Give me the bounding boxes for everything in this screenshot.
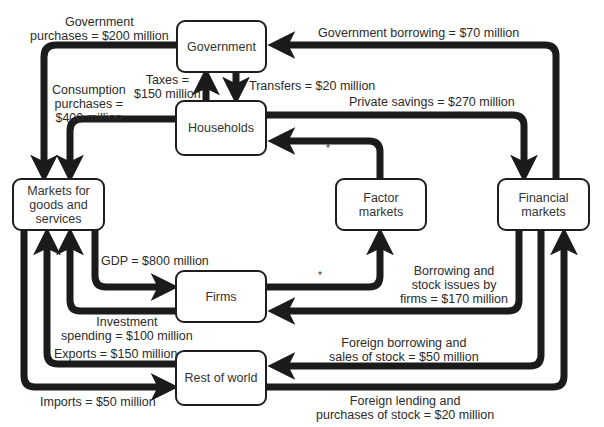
label-line: spending = $100 million xyxy=(61,329,193,343)
government-label: Government xyxy=(187,40,256,54)
households-node: Households xyxy=(175,100,267,156)
label-line: Foreign lending and xyxy=(316,394,494,408)
government-node: Government xyxy=(176,20,267,73)
firm-borrowing-label: Borrowing and stock issues by firms = $1… xyxy=(400,264,508,306)
factor-income-marker: * xyxy=(326,143,330,154)
markets-goods-line-1: Markets for xyxy=(27,184,90,198)
gdp-label: GDP = $800 million xyxy=(101,254,209,268)
financial-markets-node: Financial markets xyxy=(497,178,590,231)
taxes-label: Taxes = $150 million xyxy=(134,73,201,101)
label-line: purchases of stock = $20 million xyxy=(316,408,494,422)
label-line: $400 million xyxy=(52,111,126,125)
transfers-label: Transfers = $20 million xyxy=(249,79,375,93)
factor-markets-line-2: markets xyxy=(359,205,403,219)
foreign-lending-label: Foreign lending and purchases of stock =… xyxy=(316,394,494,422)
households-label: Households xyxy=(188,121,254,135)
label-line: Foreign borrowing and xyxy=(329,336,479,350)
firms-label: Firms xyxy=(205,290,236,304)
foreign-borrowing-label: Foreign borrowing and sales of stock = $… xyxy=(329,336,479,364)
investment-arrow xyxy=(70,240,175,311)
imports-label: Imports = $50 million xyxy=(40,395,156,409)
rest-of-world-label: Rest of world xyxy=(185,371,258,385)
consumption-label: Consumption purchases = $400 million xyxy=(52,83,126,125)
label-line: Government xyxy=(30,15,169,29)
markets-goods-line-2: goods and xyxy=(29,198,87,212)
factor-markets-node: Factor markets xyxy=(335,178,427,231)
label-line: sales of stock = $50 million xyxy=(329,350,479,364)
label-line: Taxes = xyxy=(134,73,201,87)
factor-income-arrow xyxy=(280,141,380,178)
label-line: firms = $170 million xyxy=(400,292,508,306)
rest-of-world-node: Rest of world xyxy=(175,350,267,406)
label-line: purchases = $200 million xyxy=(30,29,169,43)
government-purchases-label: Government purchases = $200 million xyxy=(30,15,169,43)
factor-markets-line-1: Factor xyxy=(363,191,398,205)
markets-goods-line-3: services xyxy=(36,212,82,226)
label-line: purchases = xyxy=(52,97,126,111)
exports-label: Exports = $150 million xyxy=(54,347,177,361)
label-line: Investment xyxy=(61,315,193,329)
label-line: stock issues by xyxy=(400,278,508,292)
private-savings-label: Private savings = $270 million xyxy=(349,95,515,109)
investment-label: Investment spending = $100 million xyxy=(61,315,193,343)
label-line: Consumption xyxy=(52,83,126,97)
factor-payments-marker: * xyxy=(318,270,322,281)
consumption-arrow xyxy=(70,119,175,170)
government-borrowing-label: Government borrowing = $70 million xyxy=(318,26,519,40)
financial-markets-line-1: Financial xyxy=(518,191,568,205)
financial-markets-line-2: markets xyxy=(521,205,565,219)
label-line: $150 million xyxy=(134,87,201,101)
factor-payments-arrow xyxy=(266,240,380,287)
markets-goods-services-node: Markets for goods and services xyxy=(12,178,105,231)
label-line: Borrowing and xyxy=(400,264,508,278)
